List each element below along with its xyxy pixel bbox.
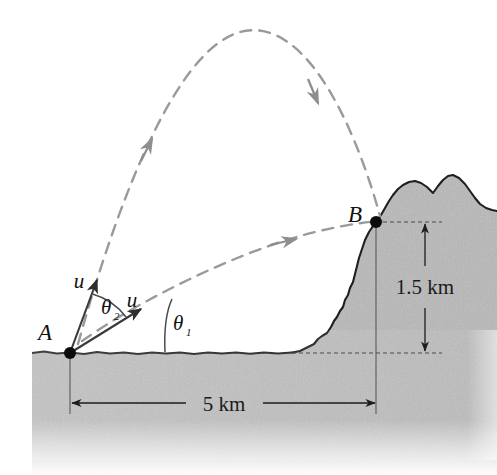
- point-b-label: B: [348, 202, 362, 227]
- point-b-marker: [370, 216, 382, 228]
- range-dimension-label: 5 km: [203, 392, 246, 416]
- high-trajectory-descent-arrow: [308, 79, 318, 103]
- height-dimension-label: 1.5 km: [396, 275, 454, 299]
- diagram-canvas: A B u u θ 2 θ 1 1.5 km 5 km: [0, 0, 497, 475]
- theta1-subscript: 1: [186, 326, 191, 338]
- theta2-subscript: 2: [114, 310, 120, 322]
- trajectories-group: [78, 30, 382, 344]
- projectile-diagram-figure: A B u u θ 2 θ 1 1.5 km 5 km: [0, 0, 497, 475]
- high-trajectory-path: [78, 30, 380, 344]
- speed-label-steep: u: [74, 269, 85, 293]
- speed-label-shallow: u: [127, 288, 138, 312]
- angle-label-theta1: θ 1: [173, 311, 191, 338]
- angle-label-theta2: θ 2: [101, 295, 120, 322]
- point-a-marker: [64, 347, 76, 359]
- theta2-glyph: θ: [101, 295, 111, 319]
- point-a-label: A: [36, 320, 53, 345]
- low-trajectory-arrow: [270, 239, 296, 245]
- terrain-group: [0, 175, 497, 475]
- theta1-glyph: θ: [173, 311, 183, 335]
- high-trajectory-ascent-arrow: [141, 139, 152, 161]
